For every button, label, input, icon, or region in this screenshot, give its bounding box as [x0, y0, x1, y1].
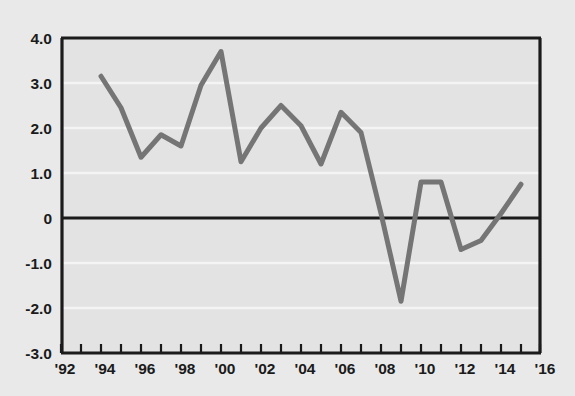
y-tick-label-3: 3.0 [30, 75, 52, 92]
x-tick-label-2008: '08 [375, 360, 396, 377]
y-tick-label-2: 2.0 [30, 120, 52, 137]
x-tick-label-2012: '12 [455, 360, 476, 377]
y-tick-label-1: 1.0 [30, 165, 52, 182]
x-tick-label-2016: '16 [535, 360, 556, 377]
x-tick-label-2004: '04 [295, 360, 316, 377]
x-tick-label-1996: '96 [135, 360, 156, 377]
y-tick-label-neg1: -1.0 [25, 255, 52, 272]
figure-container: 4.0 3.0 2.0 1.0 0 -1.0 -2.0 -3.0 '92 '94… [0, 0, 575, 396]
line-chart: 4.0 3.0 2.0 1.0 0 -1.0 -2.0 -3.0 '92 '94… [0, 0, 575, 396]
y-tick-label-neg3: -3.0 [25, 345, 52, 362]
x-tick-label-2006: '06 [335, 360, 356, 377]
x-tick-label-2000: '00 [215, 360, 236, 377]
x-tick-label-1992: '92 [55, 360, 76, 377]
x-tick-label-2010: '10 [415, 360, 436, 377]
y-tick-label-4: 4.0 [30, 30, 52, 47]
x-tick-label-2002: '02 [255, 360, 276, 377]
x-tick-label-2014: '14 [495, 360, 516, 377]
x-tick-label-1998: '98 [175, 360, 196, 377]
plot-area-background [61, 38, 541, 353]
x-tick-label-1994: '94 [95, 360, 116, 377]
y-tick-label-neg2: -2.0 [25, 300, 52, 317]
y-tick-label-0: 0 [43, 210, 52, 227]
